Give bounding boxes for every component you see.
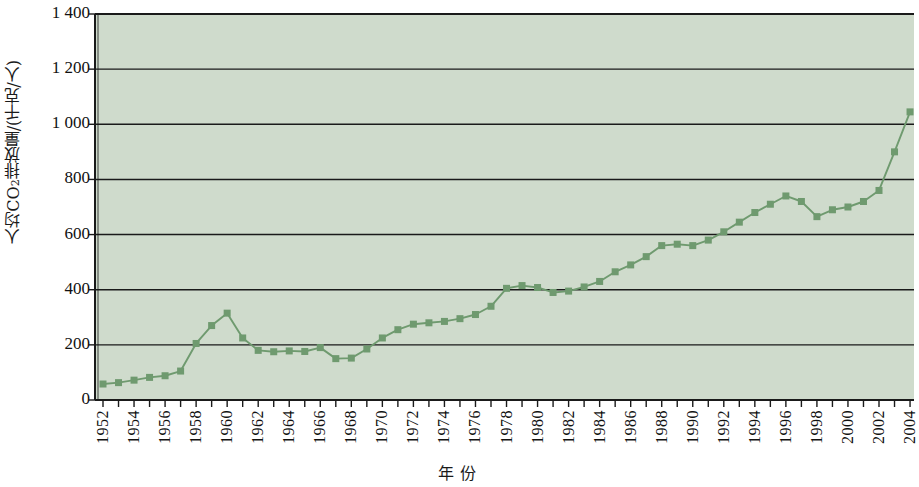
x-tick-label: 1990 [684,410,702,444]
data-point-marker [689,242,696,249]
data-point-marker [255,347,262,354]
data-point-marker [860,198,867,205]
data-point-marker [658,242,665,249]
data-point-marker [705,237,712,244]
x-tick-label: 1988 [653,410,671,444]
data-point-marker [332,355,339,362]
data-point-marker [286,347,293,354]
data-point-marker [674,241,681,248]
data-point-marker [100,381,107,388]
data-point-marker [782,192,789,199]
x-tick-label: 1986 [622,410,640,444]
data-point-marker [907,108,914,115]
x-axis-title: 年 份 [0,460,914,484]
x-tick-label: 2004 [901,410,919,444]
data-point-marker [720,228,727,235]
x-tick-label: 1952 [94,410,112,444]
x-tick-label: 1980 [529,410,547,444]
x-tick-label: 1976 [466,410,484,444]
data-point-marker [627,261,634,268]
x-tick-label: 1956 [156,410,174,444]
data-point-marker [193,340,200,347]
data-point-marker [550,289,557,296]
x-tick-label: 1996 [777,410,795,444]
data-point-marker [519,282,526,289]
data-point-marker [844,204,851,211]
data-point-marker [798,198,805,205]
data-point-marker [348,355,355,362]
data-point-marker [767,201,774,208]
data-point-marker [208,322,215,329]
x-tick-label: 1970 [373,410,391,444]
data-point-marker [472,311,479,318]
data-point-marker [224,310,231,317]
x-tick-label: 1954 [125,410,143,444]
data-point-marker [891,148,898,155]
data-point-marker [829,206,836,213]
x-tick-label: 2000 [839,410,857,444]
data-point-marker [751,209,758,216]
data-point-marker [363,345,370,352]
data-point-marker [643,253,650,260]
data-point-marker [534,284,541,291]
data-point-marker [131,377,138,384]
data-point-marker [503,285,510,292]
x-tick-label: 1962 [249,410,267,444]
data-point-marker [736,219,743,226]
data-point-marker [317,344,324,351]
x-tick-label: 1968 [342,410,360,444]
x-tick-label: 1984 [591,410,609,444]
data-point-marker [270,348,277,355]
x-tick-label: 1978 [498,410,516,444]
data-point-marker [162,372,169,379]
data-point-marker [565,288,572,295]
x-tick-label: 2002 [870,410,888,444]
x-tick-label: 1966 [311,410,329,444]
x-tick-label: 1994 [746,410,764,444]
data-point-marker [581,283,588,290]
data-point-marker [394,326,401,333]
data-point-marker [612,268,619,275]
x-tick-label: 1998 [808,410,826,444]
data-point-marker [876,187,883,194]
x-tick-label: 1958 [187,410,205,444]
x-tick-label: 1972 [404,410,422,444]
x-axis-title-text: 年 份 [438,464,475,483]
data-point-marker [596,278,603,285]
x-tick-label: 1992 [715,410,733,444]
x-tick-label: 1964 [280,410,298,444]
data-point-marker [425,319,432,326]
plot-background [95,14,914,400]
data-point-marker [115,379,122,386]
data-point-marker [301,348,308,355]
data-point-marker [813,213,820,220]
data-point-marker [177,368,184,375]
x-tick-label: 1960 [218,410,236,444]
x-tick-label: 1982 [560,410,578,444]
data-point-marker [488,303,495,310]
data-point-marker [146,374,153,381]
data-point-marker [456,315,463,322]
data-point-marker [239,334,246,341]
data-point-marker [441,318,448,325]
x-tick-label: 1974 [435,410,453,444]
data-point-marker [379,334,386,341]
data-point-marker [410,321,417,328]
